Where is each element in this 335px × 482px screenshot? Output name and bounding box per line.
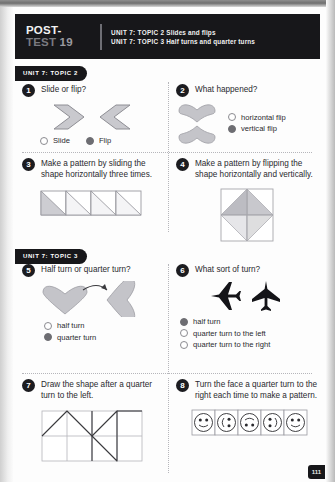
question-5-number: 5 <box>22 264 35 277</box>
question-4-prompt: Make a pattern by flipping the shape hor… <box>195 158 318 181</box>
question-1-prompt: Slide or flip? <box>41 84 86 95</box>
option-label: Slide <box>53 136 70 145</box>
question-2: 2 What happened? horizontal flip vertica… <box>176 84 318 148</box>
quarter-turn-grid <box>40 409 146 463</box>
heart-rotation-figure <box>35 281 151 317</box>
question-1-option-slide[interactable]: Slide <box>40 136 70 145</box>
heart-bottom-shape <box>179 126 215 143</box>
question-7-head: 7 Draw the shape after a quarter turn to… <box>22 379 164 402</box>
question-6-option-half-turn[interactable]: half turn <box>180 317 318 326</box>
flip-pattern-diamond <box>217 187 277 245</box>
question-2-option-vertical-flip[interactable]: vertical flip <box>228 124 286 133</box>
question-2-options: horizontal flip vertical flip <box>228 113 286 136</box>
option-label: quarter turn to the left <box>193 329 266 338</box>
question-3-head: 3 Make a pattern by sliding the shape ho… <box>22 158 164 181</box>
banner-title-block: POST- TEST 19 <box>15 25 100 49</box>
question-5-prompt: Half turn or quarter turn? <box>41 264 131 275</box>
radio-icon[interactable] <box>180 329 188 337</box>
row-divider-q12-q34 <box>22 152 312 153</box>
scan-right-edge <box>326 0 335 482</box>
banner-test-number: 19 <box>60 36 73 48</box>
section-tag-topic-3: UNIT 7: TOPIC 3 <box>15 249 87 264</box>
question-5-option-quarter-turn[interactable]: quarter turn <box>44 333 164 342</box>
question-6-number: 6 <box>176 264 189 277</box>
chevron-pair-figure <box>36 102 148 132</box>
radio-icon[interactable] <box>40 137 48 145</box>
question-6-head: 6 What sort of turn? <box>176 264 318 277</box>
question-8-prompt: Turn the face a quarter turn to the righ… <box>195 379 323 402</box>
question-2-body: horizontal flip vertical flip <box>176 100 318 148</box>
page-number-badge: 111 <box>308 465 325 479</box>
question-4: 4 Make a pattern by flipping the shape h… <box>176 158 318 245</box>
question-6-figure <box>176 279 318 313</box>
heart-top-shape <box>179 105 215 122</box>
banner-line-1: UNIT 7: TOPIC 2 Slides and flips <box>111 29 255 36</box>
radio-icon[interactable] <box>228 113 236 121</box>
question-2-head: 2 What happened? <box>176 84 318 97</box>
option-label: Flip <box>99 136 111 145</box>
question-7-figure <box>22 409 164 463</box>
question-1-figure <box>22 102 162 132</box>
column-divider-mid <box>168 264 169 374</box>
airplane-right-shape <box>252 281 280 311</box>
option-label: quarter turn <box>57 333 96 342</box>
airplane-rotation-figure <box>192 279 302 313</box>
scan-left-edge <box>0 7 13 482</box>
radio-icon[interactable] <box>44 333 52 341</box>
banner-divider <box>100 24 102 50</box>
question-3-number: 3 <box>22 158 35 171</box>
question-8-number: 8 <box>176 379 189 392</box>
option-label: half turn <box>193 317 220 326</box>
question-6: 6 What sort of turn? half turn quarter t… <box>176 264 318 352</box>
question-6-option-quarter-turn-right[interactable]: quarter turn to the right <box>180 340 318 349</box>
banner-line-2-desc: Half turns and quarter turns <box>166 38 255 45</box>
question-2-option-horizontal-flip[interactable]: horizontal flip <box>228 113 286 122</box>
question-1-options: Slide Flip <box>22 136 162 148</box>
banner-post-label: POST- <box>26 25 100 36</box>
banner-line-2: UNIT 7: TOPIC 3 Half turns and quarter t… <box>111 38 255 45</box>
column-divider-bottom <box>168 378 169 473</box>
question-5-options: half turn quarter turn <box>22 321 164 342</box>
question-6-prompt: What sort of turn? <box>195 264 260 275</box>
banner-subtitle-block: UNIT 7: TOPIC 2 Slides and flips UNIT 7:… <box>111 29 255 45</box>
question-7-prompt: Draw the shape after a quarter turn to t… <box>41 379 164 402</box>
question-5-head: 5 Half turn or quarter turn? <box>22 264 164 277</box>
question-5: 5 Half turn or quarter turn? half turn q… <box>22 264 164 344</box>
banner-test-label: TEST 19 <box>26 36 100 49</box>
question-8-head: 8 Turn the face a quarter turn to the ri… <box>176 379 324 402</box>
section-tag-topic-2: UNIT 7: TOPIC 2 <box>15 66 87 81</box>
question-4-head: 4 Make a pattern by flipping the shape h… <box>176 158 318 181</box>
radio-icon[interactable] <box>228 125 236 133</box>
radio-icon[interactable] <box>44 322 52 330</box>
heart-right-shape <box>107 281 135 317</box>
question-6-options: half turn quarter turn to the left quart… <box>176 317 318 349</box>
question-5-option-half-turn[interactable]: half turn <box>44 321 164 330</box>
heart-flip-figure <box>176 100 218 148</box>
question-3-figure <box>22 189 164 217</box>
scan-top-strip <box>0 0 335 7</box>
option-label: horizontal flip <box>241 113 286 122</box>
question-2-prompt: What happened? <box>195 84 257 95</box>
question-1: 1 Slide or flip? Slide Flip <box>22 84 162 148</box>
banner-line-2-unit: UNIT 7: TOPIC 3 <box>111 38 164 45</box>
smiley-rotation-strip <box>191 409 309 437</box>
option-label: quarter turn to the right <box>193 340 270 349</box>
question-2-number: 2 <box>176 84 189 97</box>
question-1-number: 1 <box>22 84 35 97</box>
question-7-number: 7 <box>22 379 35 392</box>
question-8: 8 Turn the face a quarter turn to the ri… <box>176 379 324 437</box>
question-7: 7 Draw the shape after a quarter turn to… <box>22 379 164 463</box>
chevron-right-shape <box>54 105 84 129</box>
question-5-figure <box>22 281 164 317</box>
post-test-banner: POST- TEST 19 UNIT 7: TOPIC 2 Slides and… <box>15 14 320 59</box>
radio-icon[interactable] <box>86 137 94 145</box>
worksheet-page: POST- TEST 19 UNIT 7: TOPIC 2 Slides and… <box>0 0 335 482</box>
slide-pattern-strip <box>39 189 147 217</box>
question-6-option-quarter-turn-left[interactable]: quarter turn to the left <box>180 329 318 338</box>
heart-left-shape <box>43 286 87 314</box>
radio-icon[interactable] <box>180 341 188 349</box>
radio-icon[interactable] <box>180 318 188 326</box>
question-4-number: 4 <box>176 158 189 171</box>
question-3: 3 Make a pattern by sliding the shape ho… <box>22 158 164 217</box>
question-1-option-flip[interactable]: Flip <box>86 136 111 145</box>
